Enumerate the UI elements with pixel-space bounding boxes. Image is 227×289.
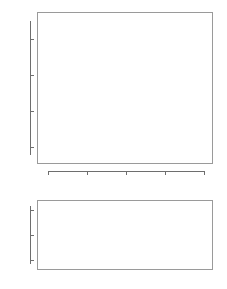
top-y-tick-20 [30,75,34,76]
top-x-tick-100 [48,171,49,175]
top-x-tick-400 [165,171,166,175]
top-y-tick-10 [30,111,34,112]
figure-canvas [0,0,227,289]
bottom-y-tick-neg20 [30,260,34,261]
top-y-tick-0 [30,147,34,148]
top-y-tick-30 [30,39,34,40]
top-x-tick-300 [126,171,127,175]
top-plot-frame [37,12,213,164]
top-x-tick-200 [87,171,88,175]
scatter-plot-panel [0,0,227,185]
bottom-y-tick-20 [30,210,34,211]
bottom-plot-frame [37,200,213,270]
bottom-y-tick-0 [30,235,34,236]
top-y-axis-line [30,21,31,155]
residual-plot-panel [0,196,227,289]
top-x-tick-500 [204,171,205,175]
